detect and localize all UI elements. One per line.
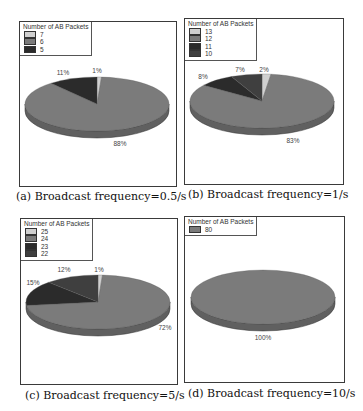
pie-slice-80 xyxy=(191,270,335,324)
pie-chart-d: 100% xyxy=(0,0,363,411)
chart-caption-d: (d) Broadcast frequency=10/s xyxy=(188,387,355,400)
slice-percent-label: 100% xyxy=(255,334,272,341)
